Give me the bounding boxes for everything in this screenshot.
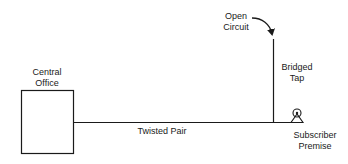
subscriber-premise-label-line1: Subscriber <box>290 130 340 141</box>
open-circuit-label-line1: Open <box>219 11 253 22</box>
central-office-label: Central Office <box>27 67 67 89</box>
central-office-box <box>22 91 74 154</box>
open-circuit-label-line2: Circuit <box>219 22 253 33</box>
subscriber-premise-label: Subscriber Premise <box>290 130 340 152</box>
twisted-pair-label: Twisted Pair <box>132 126 192 137</box>
bridged-tap-label: Bridged Tap <box>277 62 317 84</box>
bridged-tap-label-line1: Bridged <box>277 62 317 73</box>
subscriber-premise-label-line2: Premise <box>290 141 340 152</box>
central-office-label-line2: Office <box>27 78 67 89</box>
open-circuit-arrow <box>252 18 272 34</box>
central-office-label-line1: Central <box>27 67 67 78</box>
bridged-tap-label-line2: Tap <box>277 73 317 84</box>
subscriber-premise-icon <box>291 109 303 123</box>
open-circuit-label: Open Circuit <box>219 11 253 33</box>
